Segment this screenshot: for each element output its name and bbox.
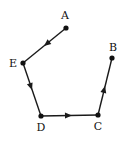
arrow-e-d-icon bbox=[27, 82, 35, 91]
node-e-label: E bbox=[9, 57, 17, 70]
node-d-label: D bbox=[37, 121, 46, 134]
node-c-dot bbox=[95, 112, 100, 117]
arrowheads bbox=[27, 39, 108, 118]
path-diagram: A B C D E bbox=[0, 0, 123, 147]
node-b-dot bbox=[109, 55, 114, 60]
node-e-dot bbox=[20, 60, 25, 65]
node-c-label: C bbox=[94, 120, 102, 133]
node-a-dot bbox=[63, 25, 68, 30]
edges bbox=[23, 28, 112, 116]
arrow-d-c-icon bbox=[65, 113, 72, 119]
node-a-label: A bbox=[60, 9, 70, 22]
node-d-dot bbox=[38, 113, 43, 118]
node-b-label: B bbox=[109, 41, 117, 54]
arrow-c-b-icon bbox=[100, 85, 107, 93]
